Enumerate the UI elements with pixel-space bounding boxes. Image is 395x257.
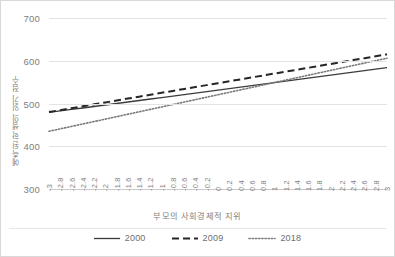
x-tick-label: -1.8 <box>112 177 121 191</box>
line-chart-figure: 예측된 학생의 읽기 점수 700600500400300 -3-2.8-2.6… <box>0 0 395 257</box>
series-lines <box>49 18 387 189</box>
x-tick-label: 1.6 <box>304 180 313 191</box>
legend-label: 2009 <box>203 233 224 243</box>
y-axis-tick-labels: 700600500400300 <box>1 18 45 189</box>
x-tick-label: -1.2 <box>146 177 155 191</box>
x-tick-label: 2.6 <box>360 180 369 191</box>
y-tick-label: 600 <box>24 55 40 66</box>
x-tick-label: 0.6 <box>247 180 256 191</box>
series-line-2009 <box>49 54 387 112</box>
series-line-2000 <box>49 68 387 113</box>
legend-label: 2000 <box>125 233 146 243</box>
x-tick-label: -0.6 <box>180 177 189 191</box>
legend-separator <box>9 228 386 229</box>
y-tick-label: 400 <box>24 141 40 152</box>
x-tick-label: 1.4 <box>292 180 301 191</box>
x-tick-label: 0.8 <box>259 180 268 191</box>
legend-item-2000[interactable]: 2000 <box>94 233 146 243</box>
series-line-2018 <box>49 58 387 131</box>
legend-item-2009[interactable]: 2009 <box>172 233 224 243</box>
x-tick-label: -2.2 <box>90 177 99 191</box>
x-tick-label: 2.4 <box>349 180 358 191</box>
legend-item-2018[interactable]: 2018 <box>249 233 301 243</box>
x-tick-label: 2.2 <box>337 180 346 191</box>
x-tick-label: 0 <box>214 187 223 191</box>
x-tick-label: 1.2 <box>281 180 290 191</box>
x-tick-label: 0.4 <box>236 180 245 191</box>
x-axis-title: 부모의 사회경제적 지위 <box>1 209 394 221</box>
x-tick-label: 2 <box>326 187 335 191</box>
x-tick-label: -0.4 <box>191 177 200 191</box>
plot-area <box>49 18 387 189</box>
x-tick-label: 1.8 <box>315 180 324 191</box>
x-tick-label: 2.8 <box>371 180 380 191</box>
x-tick-label: -1.4 <box>135 177 144 191</box>
x-tick-label: 3 <box>383 187 392 191</box>
x-tick-label: -1.6 <box>123 177 132 191</box>
x-tick-label: 1 <box>270 187 279 191</box>
solid-line-swatch <box>94 235 120 242</box>
x-tick-label: -2.8 <box>56 177 65 191</box>
x-tick-label: -1 <box>157 184 166 191</box>
chart-legend: 200020092018 <box>1 233 394 243</box>
x-tick-label: -0.2 <box>202 177 211 191</box>
dashed-line-swatch <box>172 235 198 242</box>
x-tick-label: -2 <box>101 184 110 191</box>
x-tick-label: -2.4 <box>78 177 87 191</box>
y-tick-label: 300 <box>24 184 40 195</box>
legend-label: 2018 <box>280 233 301 243</box>
x-tick-label: 0.2 <box>225 180 234 191</box>
x-tick-label: -3 <box>45 184 54 191</box>
x-tick-label: -2.6 <box>67 177 76 191</box>
dotted-line-swatch <box>249 235 275 242</box>
x-tick-label: -0.8 <box>168 177 177 191</box>
y-tick-label: 700 <box>24 13 40 24</box>
y-tick-label: 500 <box>24 98 40 109</box>
